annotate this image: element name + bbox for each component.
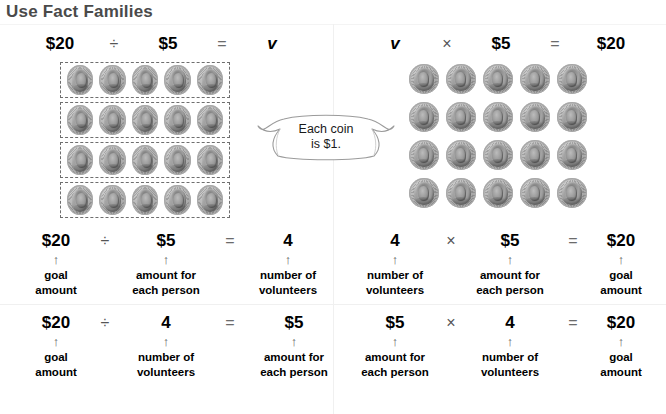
term-divisor: $5 [157,231,176,251]
term-quotient: $5 [285,313,304,333]
arrow-up-icon: ↑ [285,252,292,267]
coin-icon [164,185,190,215]
arrow-up-icon: ↑ [163,334,170,349]
bottom-left-equation: $20 ↑ goal amount ÷ 4 ↑ number of volunt… [22,313,340,379]
callout-line-1: Each coin [256,122,396,137]
label-line-1: amount for [480,268,540,282]
label-line-1: goal [609,268,633,282]
label-line-1: goal [44,350,68,364]
label-line-1: number of [138,350,194,364]
coin-icon [99,105,125,135]
coin-icon [99,145,125,175]
operator-divide: ÷ [110,34,119,54]
coin-icon [483,102,513,132]
coin-icon [446,64,476,94]
coin-row [409,140,587,170]
term-dividend: $20 [42,231,70,251]
arrow-up-icon: ↑ [507,334,514,349]
label-line-2: volunteers [481,365,539,379]
coin-icon [409,140,439,170]
coin-icon [446,102,476,132]
label-line-2: amount [35,365,77,379]
operator-equals: = [568,231,577,251]
label-line-1: number of [367,268,423,282]
coin-group-row [60,102,230,138]
label-line-1: amount for [365,350,425,364]
right-coin-grid [409,64,587,216]
term-quotient: 4 [283,231,292,251]
coin-icon [99,185,125,215]
coin-icon [197,145,223,175]
term-factor-1: $5 [386,313,405,333]
coin-icon [557,64,587,94]
coin-icon [483,140,513,170]
coin-icon [557,102,587,132]
label-line-1: amount for [264,350,324,364]
divider-horizontal [0,304,666,305]
coin-group-row [60,62,230,98]
coin-icon [197,185,223,215]
label-line-1: amount for [136,268,196,282]
arrow-up-icon: ↑ [618,334,625,349]
coin-icon [67,65,93,95]
term-factor: $5 [492,34,511,54]
operator-equals: = [217,34,226,54]
arrow-up-icon: ↑ [392,334,399,349]
term-variable-v: v [390,34,399,54]
coin-icon [409,178,439,208]
coin-icon [99,65,125,95]
operator-divide: ÷ [101,231,110,251]
term-divisor: $5 [159,34,178,54]
operator-divide: ÷ [101,313,110,333]
label-line-1: goal [44,268,68,282]
top-right-equation: 4 ↑ number of volunteers × $5 ↑ amount f… [352,231,652,297]
top-left-header-equation: $20 ÷ $5 = v [30,34,298,54]
label-line-1: goal [609,350,633,364]
label-line-2: amount [600,365,642,379]
arrow-up-icon: ↑ [392,252,399,267]
arrow-up-icon: ↑ [163,252,170,267]
coin-icon [520,140,550,170]
coin-icon [164,65,190,95]
coin-row [409,64,587,94]
operator-times: × [442,34,451,54]
coin-row [409,178,587,208]
term-product: $20 [607,313,635,333]
label-line-2: volunteers [137,365,195,379]
coin-icon [132,145,158,175]
coin-icon [446,178,476,208]
term-factor-2: 4 [505,313,514,333]
callout-line-2: is $1. [256,137,396,152]
label-line-1: number of [260,268,316,282]
coin-icon [67,105,93,135]
coin-icon [409,102,439,132]
term-divisor: 4 [161,313,170,333]
operator-equals: = [225,231,234,251]
coin-icon [557,140,587,170]
coin-icon [483,64,513,94]
coin-group-row [60,142,230,178]
arrow-up-icon: ↑ [291,334,298,349]
callout-text: Each coin is $1. [256,122,396,152]
arrow-up-icon: ↑ [53,252,60,267]
coin-icon [520,102,550,132]
term-product: $20 [597,34,625,54]
coin-icon [557,178,587,208]
bottom-right-equation: $5 ↑ amount for each person × 4 ↑ number… [352,313,652,379]
operator-times: × [446,231,455,251]
top-right-header-equation: v × $5 = $20 [368,34,642,54]
coin-icon [520,178,550,208]
label-line-2: volunteers [259,283,317,297]
label-line-2: amount [35,283,77,297]
callout-banner: Each coin is $1. [256,112,396,162]
label-line-2: volunteers [366,283,424,297]
label-line-2: each person [476,283,544,297]
left-coin-grid [60,62,230,222]
operator-equals: = [568,313,577,333]
coin-icon [132,65,158,95]
term-factor-2: $5 [501,231,520,251]
label-line-2: amount [600,283,642,297]
coin-icon [483,178,513,208]
label-line-1: number of [482,350,538,364]
coin-icon [197,65,223,95]
